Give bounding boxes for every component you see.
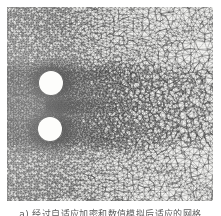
figure-caption-text: a) 经过自适应加密和数值模拟后适应的网格 — [19, 208, 201, 216]
figure-root: a) 经过自适应加密和数值模拟后适应的网格 — [0, 0, 221, 216]
cylinder-upper — [39, 71, 63, 95]
figure-caption: a) 经过自适应加密和数值模拟后适应的网格 — [0, 203, 221, 216]
adaptive-mesh-figure — [7, 7, 213, 201]
mesh-svg — [7, 7, 213, 201]
cylinder-lower — [38, 117, 62, 141]
